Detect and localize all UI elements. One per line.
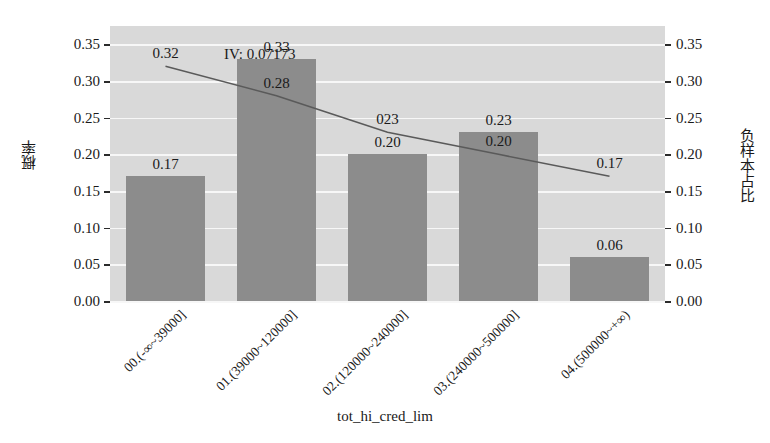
x-tick-label: 01.(39000~120000] — [213, 307, 300, 394]
right-axis: 0.000.050.100.150.200.250.300.35 — [665, 26, 725, 301]
tick-mark — [104, 44, 110, 46]
line-value-label: 023 — [376, 111, 399, 128]
tick-mark — [665, 264, 671, 266]
tick-mark — [665, 44, 671, 46]
tick-mark — [665, 154, 671, 156]
y-tick-label-right: 0.30 — [676, 73, 702, 90]
y-tick-label-right: 0.15 — [676, 183, 702, 200]
tick-mark — [665, 301, 671, 303]
tick-mark — [104, 81, 110, 83]
tick-mark — [665, 118, 671, 120]
bar-value-label: 0.20 — [374, 134, 400, 151]
bar-value-label: 0.23 — [485, 112, 511, 129]
y-tick-label-left: 0.00 — [74, 293, 100, 310]
tick-mark — [665, 81, 671, 83]
y-tick-label-right: 0.20 — [676, 146, 702, 163]
tick-mark — [665, 191, 671, 193]
bar-value-label: 0.06 — [596, 237, 622, 254]
line-value-label: 0.32 — [152, 45, 178, 62]
x-tick-label: 02.(120000~240000] — [319, 307, 411, 399]
tick-mark — [104, 191, 110, 193]
line-value-label: 0.17 — [596, 155, 622, 172]
y-tick-label-left: 0.30 — [74, 73, 100, 90]
y-tick-label-right: 0.35 — [676, 36, 702, 53]
tick-mark — [104, 228, 110, 230]
x-axis-tick-labels: 00.(-∞~39000]01.(39000~120000]02.(120000… — [110, 303, 665, 398]
bar-value-label: 0.17 — [152, 156, 178, 173]
y-tick-label-left: 0.15 — [74, 183, 100, 200]
tick-mark — [665, 228, 671, 230]
value-labels: 0.170.330.200.230.060.320.280230.200.17 — [110, 26, 665, 301]
plot-area: 0.170.330.200.230.060.320.280230.200.17 … — [110, 26, 665, 301]
x-axis-label: tot_hi_cred_lim — [0, 408, 770, 425]
left-axis: 0.000.050.100.150.200.250.300.35 — [60, 26, 110, 301]
y-tick-label-right: 0.00 — [676, 293, 702, 310]
y-tick-label-right: 0.25 — [676, 109, 702, 126]
tick-mark — [104, 154, 110, 156]
iv-annotation: IV: 0.07173 — [224, 46, 295, 63]
x-tick-label: 00.(-∞~39000] — [120, 307, 189, 376]
y-tick-label-left: 0.10 — [74, 219, 100, 236]
line-value-label: 0.28 — [263, 75, 289, 92]
tick-mark — [104, 264, 110, 266]
x-tick-label: 03.(240000~500000] — [430, 307, 522, 399]
y-tick-label-left: 0.35 — [74, 36, 100, 53]
y-axis-label-right: 负样本占比 — [736, 128, 757, 203]
y-tick-label-left: 0.25 — [74, 109, 100, 126]
x-tick-label: 04.(500000~+∞) — [557, 307, 633, 383]
y-tick-label-left: 0.20 — [74, 146, 100, 163]
chart-figure: 0.170.330.200.230.060.320.280230.200.17 … — [0, 0, 770, 443]
line-value-label: 0.20 — [485, 133, 511, 150]
y-tick-label-right: 0.10 — [676, 219, 702, 236]
tick-mark — [104, 118, 110, 120]
y-axis-label-left: 概率 — [18, 140, 39, 170]
y-tick-label-left: 0.05 — [74, 256, 100, 273]
y-tick-label-right: 0.05 — [676, 256, 702, 273]
